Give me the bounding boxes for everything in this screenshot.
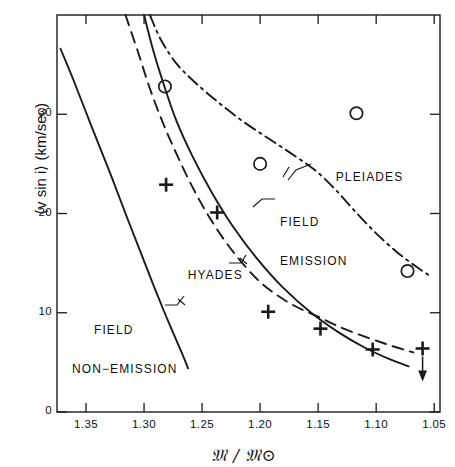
data-point-plus — [159, 178, 173, 192]
x-tick-label: 1.35 — [69, 418, 103, 430]
x-axis-label-text: 𝔐 / 𝔐⊙ — [211, 445, 276, 465]
y-axis-label: ⟨v sin i⟩ (km/sec) — [32, 74, 50, 244]
y-axis-label-text: ⟨v sin i⟩ (km/sec) — [32, 103, 49, 215]
data-point-plus — [416, 341, 430, 355]
data-point-plus — [210, 206, 224, 220]
data-point-circle — [350, 107, 362, 119]
x-tick-label: 1.15 — [301, 418, 335, 430]
annotation-hyades: HYADES — [170, 256, 243, 295]
x-tick-label: 1.30 — [127, 418, 161, 430]
upper-limit-arrow — [418, 356, 427, 381]
x-tick-label: 1.25 — [185, 418, 219, 430]
annotation-field-emission-line2: EMISSION — [280, 255, 347, 268]
y-tick-label: 10 — [22, 305, 52, 317]
annotation-field-emission-line1: FIELD — [280, 216, 347, 229]
x-tick-label: 1.20 — [243, 418, 277, 430]
annotation-hyades-text: HYADES — [188, 268, 243, 282]
data-point-circle — [254, 158, 266, 170]
annotation-field-emission: FIELD EMISSION — [280, 190, 347, 294]
annotation-field-nonemission: FIELD NON−EMISSION — [72, 298, 178, 402]
annotation-pleiades-text: PLEIADES — [336, 170, 404, 184]
annotation-field-nonemission-line1: FIELD — [94, 324, 178, 337]
x-axis-label: 𝔐 / 𝔐⊙ — [196, 431, 276, 467]
data-point-circle — [401, 265, 413, 277]
x-tick-label: 1.05 — [417, 418, 451, 430]
annotation-field-nonemission-line2: NON−EMISSION — [72, 363, 178, 376]
data-point-plus — [261, 305, 275, 319]
y-tick-label: 0 — [22, 404, 52, 416]
x-tick-label: 1.10 — [359, 418, 393, 430]
